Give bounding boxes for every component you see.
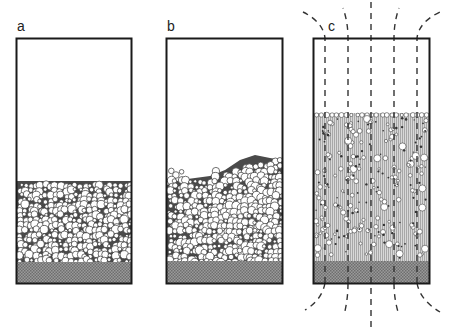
distributor-base-a [17, 262, 131, 283]
distributor-base-b [167, 261, 282, 283]
fluidized-bed-diagram [0, 0, 450, 327]
particles-a [15, 181, 135, 265]
panel-a [15, 39, 135, 284]
panel-c [303, 0, 440, 327]
panel-b [165, 39, 285, 284]
particles-b [165, 155, 285, 267]
